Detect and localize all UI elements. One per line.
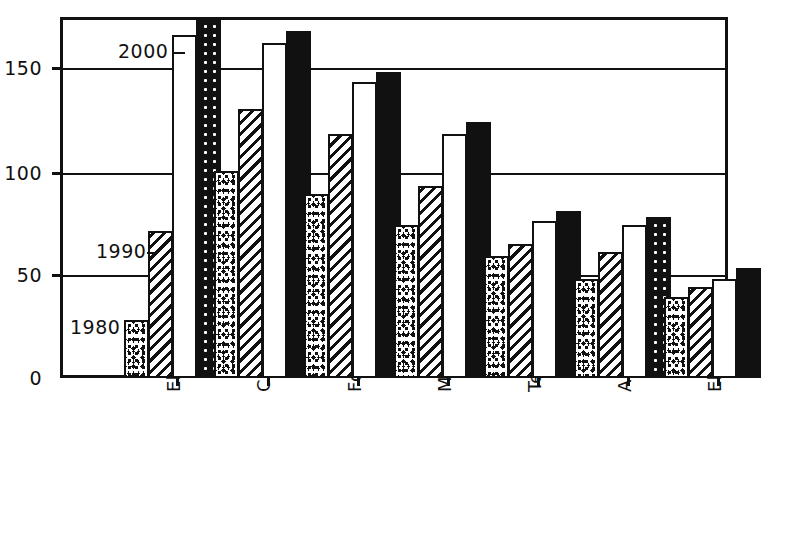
bar-chemistry-and-oil-1980 (214, 171, 239, 378)
series-annotation-1980: 1980 (70, 316, 120, 338)
bar-chart-figure: 150 100 50 0 Electronics Chemistry and o… (0, 0, 795, 560)
bar-food-drinks-1990 (328, 134, 353, 378)
bar-machines-optics-1980 (394, 225, 419, 378)
bar-electric-1980 (664, 297, 689, 378)
series-annotation-1990: 1990 (96, 240, 146, 262)
bar-automobile-2000 (622, 225, 647, 378)
series-leader-2000 (173, 52, 185, 54)
bar-automobile-1980 (574, 279, 599, 378)
bar-electric-1990 (688, 287, 713, 378)
bar-food-drinks-2000 (352, 82, 377, 378)
bar-chemistry-and-oil-1990 (238, 109, 263, 378)
bar-electric-2000 (712, 279, 737, 378)
bar-machines-optics-2000 (442, 134, 467, 378)
bar-textile-leather-1990 (508, 244, 533, 378)
bar-textile-leather-1980 (484, 256, 509, 378)
bar-electric-projection (736, 268, 761, 378)
bar-electronics-1980 (124, 320, 149, 378)
bar-textile-leather-2000 (532, 221, 557, 378)
bar-food-drinks-1980 (304, 194, 329, 378)
bar-series-layer (0, 0, 795, 560)
bar-electronics-2000 (172, 35, 197, 378)
bar-machines-optics-1990 (418, 186, 443, 378)
bar-automobile-1990 (598, 252, 623, 378)
bar-chemistry-and-oil-2000 (262, 43, 287, 378)
series-annotation-2000: 2000 (118, 40, 168, 62)
series-leader-1990 (147, 252, 155, 254)
